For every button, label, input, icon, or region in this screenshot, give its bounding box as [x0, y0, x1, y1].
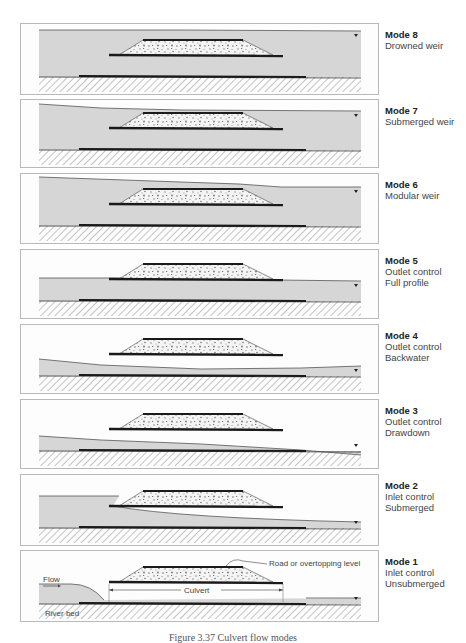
mode-title: Mode 8 — [385, 29, 443, 40]
label-mode-7: Mode 7Submerged weir — [385, 105, 454, 127]
panel-mode-8 — [20, 23, 379, 95]
road-label: Road or overtopping level — [269, 559, 360, 568]
panel-mode-3 — [20, 399, 379, 469]
road-leader-line — [226, 560, 267, 566]
culvert-invert — [79, 527, 306, 528]
mode-description: Inlet control — [385, 567, 445, 578]
embankment-fill — [119, 339, 273, 354]
river-bed-label: River bed — [45, 609, 79, 618]
label-mode-1: Mode 1Inlet controlUnsubmerged — [385, 556, 445, 589]
ground-hatch — [39, 528, 361, 543]
mode-title: Mode 6 — [385, 179, 439, 190]
mode-description: Full profile — [385, 277, 442, 288]
mode-title: Mode 2 — [385, 480, 434, 491]
culvert-soffit — [109, 279, 283, 280]
culvert-soffit — [109, 506, 283, 507]
label-mode-8: Mode 8Drowned weir — [385, 29, 443, 51]
ground-hatch — [39, 376, 361, 391]
mode-title: Mode 5 — [385, 255, 442, 266]
label-mode-5: Mode 5Outlet controlFull profile — [385, 255, 442, 288]
embankment-fill — [119, 414, 273, 429]
culvert-soffit — [109, 582, 283, 583]
mode-description: Drowned weir — [385, 40, 443, 51]
panel-mode-1: FlowRiver bedCulvertRoad or overtopping … — [20, 550, 379, 622]
ground-hatch — [39, 226, 361, 241]
panel-mode-6 — [20, 173, 379, 244]
culvert-invert — [79, 450, 306, 451]
label-mode-4: Mode 4Outlet controlBackwater — [385, 330, 442, 363]
label-mode-2: Mode 2Inlet controlSubmerged — [385, 480, 434, 513]
embankment-fill — [119, 491, 273, 506]
mode-description: Submerged — [385, 502, 434, 513]
ground-hatch — [39, 301, 361, 316]
mode-description: Outlet control — [385, 416, 442, 427]
panel-mode-7 — [20, 99, 379, 168]
panel-mode-5 — [20, 249, 379, 319]
panel-mode-4 — [20, 324, 379, 394]
mode-description: Outlet control — [385, 341, 442, 352]
culvert-invert — [79, 300, 306, 301]
mode-title: Mode 4 — [385, 330, 442, 341]
mode-title: Mode 1 — [385, 556, 445, 567]
ground-hatch — [39, 77, 361, 92]
culvert-label: Culvert — [184, 586, 210, 595]
mode-description: Drawdown — [385, 427, 442, 438]
panel-mode-2 — [20, 474, 379, 546]
figure-caption: Figure 3.37 Culvert flow modes — [0, 632, 466, 643]
culvert-soffit — [109, 55, 283, 56]
mode-description: Modular weir — [385, 190, 439, 201]
mode-description: Unsubmerged — [385, 578, 445, 589]
culvert-soffit — [109, 354, 283, 355]
ground-hatch — [39, 150, 361, 165]
culvert-soffit — [109, 429, 283, 430]
culvert-invert — [79, 225, 306, 226]
flow-label: Flow — [43, 575, 60, 584]
culvert-invert — [79, 603, 306, 604]
mode-title: Mode 3 — [385, 405, 442, 416]
embankment-fill — [119, 264, 273, 279]
culvert-invert — [79, 76, 306, 77]
mode-description: Submerged weir — [385, 116, 454, 127]
ground-hatch — [39, 604, 361, 619]
culvert-soffit — [109, 204, 283, 205]
culvert-soffit — [109, 128, 283, 129]
embankment-fill — [119, 567, 273, 582]
mode-description: Backwater — [385, 352, 442, 363]
ground-hatch — [39, 451, 361, 466]
water-level-marker-icon — [354, 444, 358, 447]
mode-title: Mode 7 — [385, 105, 454, 116]
culvert-invert — [79, 149, 306, 150]
water-body — [39, 278, 361, 301]
label-mode-3: Mode 3Outlet controlDrawdown — [385, 405, 442, 438]
culvert-invert — [79, 375, 306, 376]
label-mode-6: Mode 6Modular weir — [385, 179, 439, 201]
mode-description: Inlet control — [385, 491, 434, 502]
mode-description: Outlet control — [385, 266, 442, 277]
